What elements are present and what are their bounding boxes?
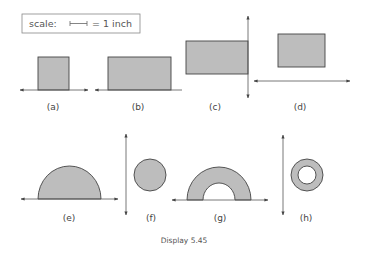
figure-a: (a)	[20, 57, 88, 112]
square-shape	[38, 57, 69, 90]
diagram-canvas: scale: = 1 inch (a) (b) (c) (d) (e)	[0, 0, 365, 253]
figure-label: (f)	[146, 213, 156, 223]
figure-label: (e)	[63, 213, 76, 223]
figure-label: (d)	[294, 102, 307, 112]
rectangle-shape	[108, 57, 171, 90]
figure-c: (c)	[186, 16, 248, 112]
figure-label: (a)	[47, 102, 60, 112]
circle-shape	[134, 159, 166, 191]
figure-label: (h)	[300, 213, 313, 223]
figure-g: (g)	[172, 167, 268, 223]
figure-label: (g)	[214, 213, 227, 223]
scale-value: = 1 inch	[92, 18, 132, 29]
half-annulus-shape	[187, 167, 251, 200]
annulus-shape	[291, 159, 323, 191]
scale-legend: scale: = 1 inch	[22, 14, 140, 33]
scale-label: scale:	[29, 18, 57, 29]
figure-b: (b)	[95, 57, 182, 112]
caption: Display 5.45	[161, 236, 208, 245]
semicircle-shape	[38, 166, 101, 199]
figure-h: (h)	[283, 135, 323, 223]
rectangle-shape	[186, 41, 248, 74]
figure-d: (d)	[254, 34, 350, 112]
figure-e: (e)	[21, 166, 118, 223]
rectangle-shape	[278, 34, 325, 67]
figure-label: (c)	[209, 102, 221, 112]
figure-f: (f)	[126, 134, 166, 223]
figure-label: (b)	[132, 102, 145, 112]
